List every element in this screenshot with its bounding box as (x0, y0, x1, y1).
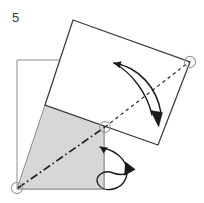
step-number-label: 5 (12, 10, 19, 25)
fold-diagram-svg (0, 0, 204, 203)
origami-step-diagram: 5 (0, 0, 204, 203)
flip-loop-arrowhead (125, 162, 136, 175)
